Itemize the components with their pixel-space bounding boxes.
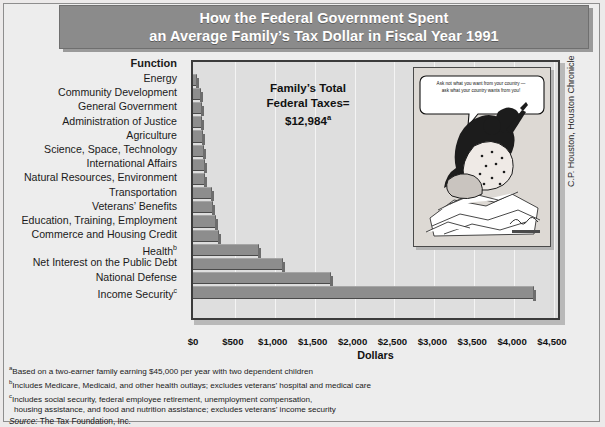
total-line-3: $12,984a xyxy=(233,110,383,128)
bubble-line-1: Ask not what you want from your country … xyxy=(428,81,534,88)
bar xyxy=(193,74,197,86)
bar xyxy=(193,286,534,298)
bar-row xyxy=(193,257,562,271)
bar xyxy=(193,116,202,128)
total-taxes-annotation: Family’s Total Federal Taxes= $12,984a xyxy=(233,80,383,128)
chart-area: Function EnergyCommunity DevelopmentGene… xyxy=(0,55,605,345)
bar xyxy=(193,130,203,142)
poster-page: How the Federal Government Spent an Aver… xyxy=(0,0,605,427)
category-label: Agriculture xyxy=(0,128,189,142)
cartoon-credit: C.P. Houston, Houston Chronicle xyxy=(566,56,576,187)
x-tick-label: $1,500 xyxy=(298,336,327,347)
bar xyxy=(193,258,283,270)
category-label: Community Development xyxy=(0,85,189,99)
category-label: Healthb xyxy=(0,241,189,255)
cartoon-inset: Ask not what you want from your country … xyxy=(413,67,551,247)
function-header: Function xyxy=(0,55,189,71)
x-tick-label: $2,000 xyxy=(338,336,367,347)
category-label: Commerce and Housing Credit xyxy=(0,227,189,241)
x-tick-label: $3,500 xyxy=(458,336,487,347)
total-line-1: Family’s Total xyxy=(233,80,383,95)
bar-row xyxy=(193,286,562,300)
category-label: International Affairs xyxy=(0,156,189,170)
bubble-line-2: ask what your country wants from you! xyxy=(428,88,534,95)
x-tick-label: $1,000 xyxy=(258,336,287,347)
category-label: Administration of Justice xyxy=(0,114,189,128)
category-label: Net Interest on the Public Debt xyxy=(0,255,189,269)
x-tick-label: $500 xyxy=(222,336,243,347)
bar xyxy=(193,173,205,185)
bar xyxy=(193,272,331,284)
bar xyxy=(193,201,213,213)
x-tick-label: $4,500 xyxy=(537,336,566,347)
total-line-2: Federal Taxes= xyxy=(233,95,383,110)
title-banner: How the Federal Government Spent an Aver… xyxy=(59,5,589,49)
bar xyxy=(193,215,216,227)
x-tick-label: $2,500 xyxy=(378,336,407,347)
x-tick-label: $3,000 xyxy=(418,336,447,347)
category-label: Science, Space, Technology xyxy=(0,142,189,156)
footnote-c: cIncludes social security, federal emplo… xyxy=(9,391,439,405)
x-axis-ticks: $0$500$1,000$1,500$2,000$2,500$3,000$3,5… xyxy=(191,336,560,350)
category-label: Income Securityc xyxy=(0,284,189,298)
bar xyxy=(193,187,212,199)
bar xyxy=(193,88,201,100)
x-tick-label: $4,000 xyxy=(497,336,526,347)
category-list: EnergyCommunity DevelopmentGeneral Gover… xyxy=(0,71,189,298)
source-line: Source: The Tax Foundation, Inc. xyxy=(9,416,439,427)
bar xyxy=(193,244,259,256)
category-label-column: Function EnergyCommunity DevelopmentGene… xyxy=(0,55,189,330)
footnote-a: aBased on a two-earner family earning $4… xyxy=(9,363,439,377)
category-label: Energy xyxy=(0,71,189,85)
bar-row xyxy=(193,272,562,286)
title-line-1: How the Federal Government Spent xyxy=(200,9,449,27)
category-label: Veterans’ Benefits xyxy=(0,199,189,213)
category-label: Natural Resources, Environment xyxy=(0,170,189,184)
x-tick-label: $0 xyxy=(188,336,199,347)
cartoon-illustration xyxy=(414,68,550,246)
footnotes: aBased on a two-earner family earning $4… xyxy=(9,363,439,427)
bar xyxy=(193,159,205,171)
x-axis-label: Dollars xyxy=(191,349,560,361)
plot-box: Family’s Total Federal Taxes= $12,984a xyxy=(191,60,560,320)
category-label: Transportation xyxy=(0,185,189,199)
category-label: National Defense xyxy=(0,270,189,284)
bar xyxy=(193,102,202,114)
bar xyxy=(193,230,219,242)
title-line-2: an Average Family’s Tax Dollar in Fiscal… xyxy=(149,27,498,45)
bar xyxy=(193,145,204,157)
category-label: Education, Training, Employment xyxy=(0,213,189,227)
category-label: General Government xyxy=(0,99,189,113)
footnote-b: bIncludes Medicare, Medicaid, and other … xyxy=(9,377,439,391)
footnote-c-cont: housing assistance, and food and nutriti… xyxy=(9,405,439,415)
cartoon-speech-bubble-text: Ask not what you want from your country … xyxy=(428,81,534,94)
